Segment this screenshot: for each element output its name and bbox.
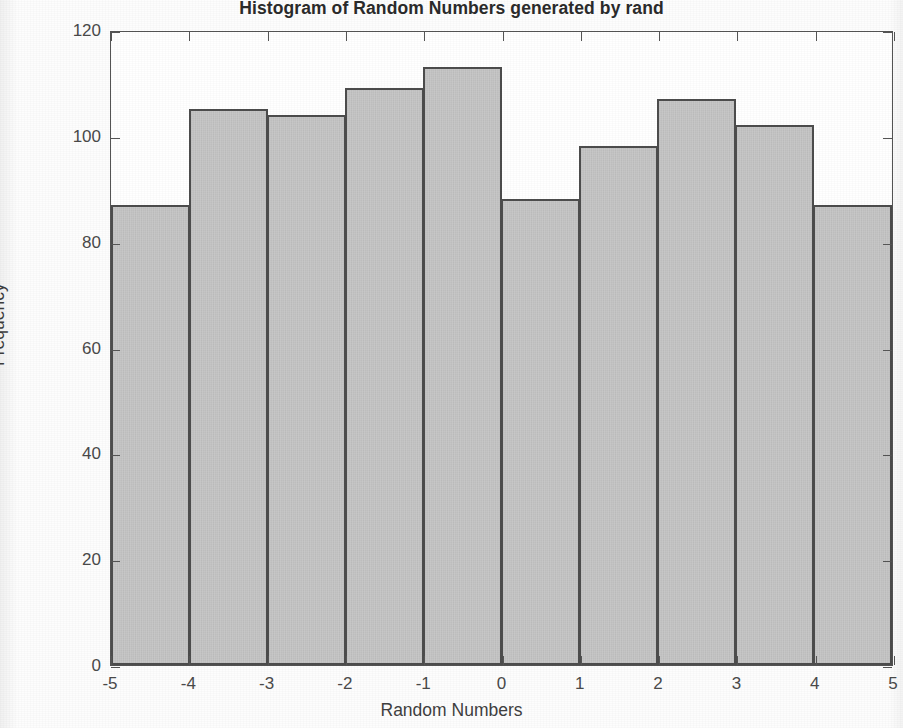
x-tick-mark [659, 656, 660, 665]
y-tick-label: 120 [73, 21, 101, 41]
x-tick-mark-top [894, 32, 895, 41]
y-tick-mark-right [883, 455, 892, 456]
y-tick-mark [111, 455, 120, 456]
x-tick-mark-top [424, 32, 425, 41]
chart-title: Histogram of Random Numbers generated by… [0, 0, 903, 19]
histogram-bar [579, 146, 658, 665]
histogram-bar [501, 199, 580, 665]
histogram-bar [657, 99, 736, 665]
y-tick-mark-right [883, 667, 892, 668]
x-tick-mark-top [111, 32, 112, 41]
x-tick-label: 2 [653, 674, 662, 694]
x-tick-mark-top [581, 32, 582, 41]
histogram-bar [735, 125, 814, 665]
y-tick-label: 100 [73, 127, 101, 147]
x-tick-label: 3 [732, 674, 741, 694]
x-tick-label: -2 [337, 674, 352, 694]
x-tick-mark [424, 656, 425, 665]
y-axis-title: Frequency [0, 283, 9, 366]
x-tick-mark-top [268, 32, 269, 41]
y-tick-mark [111, 667, 120, 668]
x-tick-label: -1 [416, 674, 431, 694]
x-tick-mark [111, 656, 112, 665]
y-tick-mark [111, 138, 120, 139]
x-tick-label: 4 [810, 674, 819, 694]
histogram-figure: Histogram of Random Numbers generated by… [0, 0, 903, 728]
x-tick-mark [816, 656, 817, 665]
bar-series [111, 32, 892, 665]
histogram-bar [345, 88, 424, 665]
x-tick-mark [503, 656, 504, 665]
y-tick-mark [111, 244, 120, 245]
x-tick-mark-top [737, 32, 738, 41]
x-tick-label: 1 [575, 674, 584, 694]
y-tick-label: 20 [82, 550, 101, 570]
x-tick-mark-top [816, 32, 817, 41]
histogram-bar [189, 109, 268, 665]
y-tick-label: 40 [82, 444, 101, 464]
y-tick-mark-right [883, 138, 892, 139]
y-tick-label: 60 [82, 339, 101, 359]
x-axis-title: Random Numbers [0, 700, 903, 721]
y-tick-mark-right [883, 561, 892, 562]
x-tick-label: 0 [497, 674, 506, 694]
y-tick-mark-right [883, 244, 892, 245]
x-tick-label: -4 [181, 674, 196, 694]
x-tick-label: -3 [259, 674, 274, 694]
x-tick-mark-top [189, 32, 190, 41]
x-tick-mark-top [659, 32, 660, 41]
histogram-bar [267, 115, 346, 665]
x-tick-mark [268, 656, 269, 665]
histogram-bar [423, 67, 502, 665]
histogram-bar [813, 205, 892, 665]
histogram-bar [111, 205, 190, 665]
y-tick-mark-right [883, 350, 892, 351]
x-tick-label: -5 [102, 674, 117, 694]
y-tick-label: 0 [92, 656, 101, 676]
plot-area [110, 31, 893, 666]
x-tick-mark [894, 656, 895, 665]
y-tick-mark-right [883, 32, 892, 33]
y-tick-mark [111, 561, 120, 562]
x-tick-mark [737, 656, 738, 665]
x-tick-mark-top [503, 32, 504, 41]
y-tick-mark [111, 32, 120, 33]
x-tick-label: 5 [888, 674, 897, 694]
x-tick-mark [581, 656, 582, 665]
x-tick-mark [189, 656, 190, 665]
y-tick-label: 80 [82, 233, 101, 253]
y-tick-mark [111, 350, 120, 351]
x-tick-mark-top [346, 32, 347, 41]
x-tick-mark [346, 656, 347, 665]
